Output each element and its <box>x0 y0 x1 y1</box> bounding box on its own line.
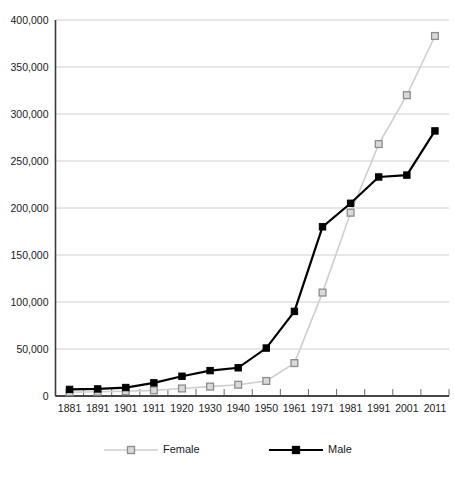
x-axis-tick-label: 1920 <box>170 402 194 414</box>
chart-container: 050,000100,000150,000200,000250,000300,0… <box>0 0 454 477</box>
x-axis-tick-label: 1901 <box>114 402 138 414</box>
x-axis-tick-label: 1940 <box>227 402 251 414</box>
y-axis-tick-labels: 050,000100,000150,000200,000250,000300,0… <box>11 14 49 402</box>
legend-marker-swatch <box>128 447 135 454</box>
data-point-marker <box>263 345 269 351</box>
data-point-marker <box>207 383 214 390</box>
x-axis-tick-label: 1930 <box>198 402 222 414</box>
x-axis-tick-label: 1961 <box>283 402 307 414</box>
y-axis-tick-label: 350,000 <box>11 61 49 73</box>
line-chart: 050,000100,000150,000200,000250,000300,0… <box>0 0 454 477</box>
data-point-marker <box>319 224 325 230</box>
y-axis-tick-label: 300,000 <box>11 108 49 120</box>
legend-marker-swatch <box>293 447 300 454</box>
x-axis-tick-label: 1911 <box>143 402 166 414</box>
y-axis-tick-label: 0 <box>43 390 49 402</box>
y-axis-tick-label: 250,000 <box>11 155 49 167</box>
y-axis-tick-label: 150,000 <box>11 249 49 261</box>
data-point-marker <box>123 384 129 390</box>
x-axis-tick-label: 1881 <box>58 402 82 414</box>
data-point-marker <box>263 378 270 385</box>
x-axis-tick-label: 2001 <box>395 402 419 414</box>
data-point-marker <box>150 387 157 394</box>
data-point-marker <box>179 373 185 379</box>
x-axis-tick-label: 1981 <box>339 402 363 414</box>
legend-label: Male <box>328 443 352 455</box>
data-point-marker <box>207 367 213 373</box>
x-axis-tick-label: 1950 <box>255 402 279 414</box>
data-point-marker <box>432 128 438 134</box>
data-point-marker <box>66 386 72 392</box>
x-axis-tick-label: 1991 <box>367 402 391 414</box>
data-point-marker <box>404 172 410 178</box>
data-point-marker <box>151 380 157 386</box>
x-axis-tick-label: 1891 <box>86 402 110 414</box>
y-axis-tick-label: 100,000 <box>11 296 49 308</box>
data-point-marker <box>403 92 410 99</box>
y-axis-tick-label: 400,000 <box>11 14 49 26</box>
data-point-marker <box>235 381 242 388</box>
data-point-marker <box>179 385 186 392</box>
data-point-marker <box>94 386 100 392</box>
data-point-marker <box>347 200 353 206</box>
legend-label: Female <box>163 443 200 455</box>
data-point-marker <box>291 360 298 367</box>
x-axis-tick-label: 1971 <box>311 402 335 414</box>
data-point-marker <box>432 33 439 40</box>
x-axis-tick-label: 2011 <box>424 402 447 414</box>
y-axis-tick-label: 200,000 <box>11 202 49 214</box>
data-point-marker <box>375 141 382 148</box>
data-point-marker <box>376 174 382 180</box>
data-point-marker <box>291 308 297 314</box>
data-point-marker <box>235 365 241 371</box>
data-point-marker <box>319 289 326 296</box>
data-point-marker <box>347 209 354 216</box>
y-axis-tick-label: 50,000 <box>16 343 48 355</box>
